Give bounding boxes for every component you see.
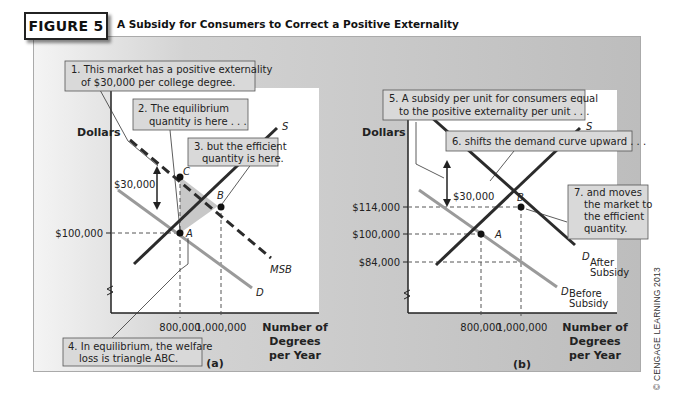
svg-text:quantity.: quantity. — [584, 223, 627, 234]
label-a: A — [185, 228, 193, 239]
svg-text:1. This market has a positive: 1. This market has a positive externalit… — [71, 64, 272, 75]
arrow-label-b: $30,000 — [453, 191, 494, 202]
curve-label-s-a: S — [282, 121, 289, 132]
x-axis-label-b-line1: Number of — [562, 321, 628, 334]
ytick-label-114k: $114,000 — [352, 202, 400, 213]
svg-text:5. A subsidy per unit for cons: 5. A subsidy per unit for consumers equa… — [389, 93, 598, 104]
callout-2: 2. The equilibrium quantity is here . . … — [133, 99, 248, 130]
svg-text:2. The equilibrium: 2. The equilibrium — [138, 103, 229, 114]
x-axis-label-b-line3: per Year — [569, 349, 621, 362]
callout-3: 3. but the efficient quantity is here. — [188, 138, 287, 166]
point-b-b — [518, 204, 525, 211]
ytick-label-100k-b: $100,000 — [352, 229, 400, 240]
svg-text:loss is triangle ABC.: loss is triangle ABC. — [79, 353, 178, 364]
xtick-label-1m-a: 1,000,000 — [196, 322, 247, 333]
panel-a: A B C $30,000 S MSB D $100,000 Dollars 8… — [55, 61, 328, 370]
curve-label-msb: MSB — [270, 264, 292, 275]
svg-text:of $30,000 per college degree.: of $30,000 per college degree. — [81, 77, 235, 88]
svg-text:4. In equilibrium, the welfare: 4. In equilibrium, the welfare — [68, 341, 212, 352]
ytick-label-84k: $84,000 — [359, 257, 400, 268]
svg-text:Subsidy: Subsidy — [569, 298, 608, 309]
callout-7: 7. and moves the market to the efficient… — [568, 185, 652, 239]
callout-4: 4. In equilibrium, the welfare loss is t… — [63, 338, 212, 366]
svg-text:Subsidy: Subsidy — [590, 267, 629, 278]
svg-text:the market to: the market to — [584, 199, 652, 210]
label-b: B — [217, 190, 224, 201]
callout-1: 1. This market has a positive externalit… — [65, 61, 272, 91]
y-axis-label-a: Dollars — [77, 126, 121, 139]
svg-text:3. but the efficient: 3. but the efficient — [194, 141, 287, 152]
label-a-b: A — [494, 229, 502, 240]
curve-label-d-before: D Before Subsidy — [561, 286, 608, 309]
panel-label-a: (a) — [206, 357, 223, 370]
svg-text:quantity is here.: quantity is here. — [202, 153, 284, 164]
svg-text:D: D — [582, 251, 590, 262]
x-axis-label-b-line2: Degrees — [569, 335, 621, 348]
callout-5: 5. A subsidy per unit for consumers equa… — [383, 90, 598, 120]
arrow-label-a: $30,000 — [114, 179, 155, 190]
label-c: C — [183, 166, 190, 177]
callout-6: 6. shifts the demand curve upward . . . — [446, 131, 646, 151]
y-axis-label-b: Dollars — [362, 126, 406, 139]
curve-label-s-b: S — [586, 121, 593, 132]
figure-svg: A B C $30,000 S MSB D $100,000 Dollars 8… — [0, 0, 696, 414]
xtick-label-800k-b: 800,000 — [460, 322, 501, 333]
curve-label-d-a: D — [256, 287, 264, 298]
svg-text:7. and moves: 7. and moves — [574, 187, 642, 198]
point-b-a — [218, 204, 225, 211]
figure-number-tab: FIGURE 5 — [24, 12, 108, 40]
panel-label-b: (b) — [513, 358, 531, 371]
x-axis-label-a-line2: Degrees — [269, 335, 321, 348]
svg-text:quantity is here . . .: quantity is here . . . — [149, 116, 247, 127]
svg-text:D: D — [561, 286, 569, 297]
copyright-notice: © CENGAGE LEARNING 2013 — [652, 267, 662, 390]
point-a-a — [177, 230, 184, 237]
point-a-b — [478, 231, 485, 238]
svg-text:6. shifts the demand curve upw: 6. shifts the demand curve upward . . . — [452, 136, 646, 147]
x-axis-label-a-line1: Number of — [262, 321, 328, 334]
panel-b: A B $30,000 S D After Subsidy D Before S… — [352, 90, 652, 371]
ytick-label-100k-a: $100,000 — [55, 228, 103, 239]
figure-title: A Subsidy for Consumers to Correct a Pos… — [117, 18, 459, 30]
svg-text:to the positive externality pe: to the positive externality per unit . .… — [399, 106, 589, 117]
figure-number: FIGURE 5 — [29, 18, 104, 34]
xtick-label-800k-a: 800,000 — [159, 322, 200, 333]
xtick-label-1m-b: 1,000,000 — [497, 322, 548, 333]
svg-text:the efficient: the efficient — [584, 211, 644, 222]
x-axis-label-a-line3: per Year — [269, 349, 321, 362]
label-b-b: B — [517, 192, 524, 203]
